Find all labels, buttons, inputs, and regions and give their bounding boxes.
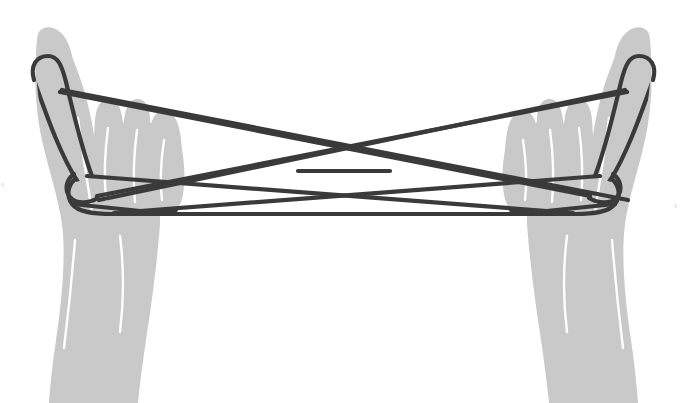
page-edge-mark-left: 6 <box>1 182 5 188</box>
page-edge-mark-right: 6 <box>674 203 678 209</box>
illustration-canvas: 6 6 <box>0 0 687 403</box>
string-figure-illustration <box>0 0 687 403</box>
